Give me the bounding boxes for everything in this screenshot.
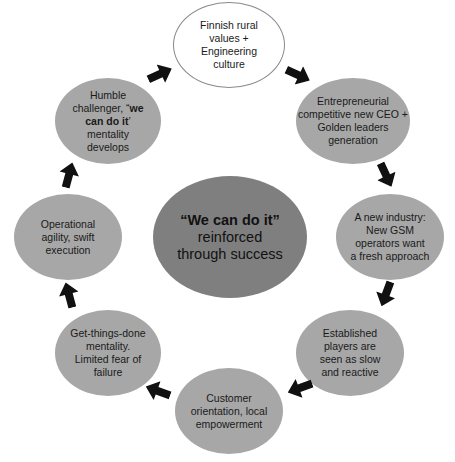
node-text: culture <box>213 58 245 70</box>
node-finnish-rural-values: Finnish rural values + Engineering cultu… <box>173 2 285 88</box>
node-operational-agility: Operational agility, swift execution <box>14 194 122 280</box>
arrow-right-icon <box>144 59 176 88</box>
node-text: a fresh approach <box>351 250 430 262</box>
node-text: orientation, local <box>191 405 267 417</box>
node-text: Humble <box>90 89 126 101</box>
arrow-left-icon <box>142 377 173 405</box>
arrow-down-icon <box>371 159 400 191</box>
center-text: through success <box>177 246 283 262</box>
node-humble-challenger: Humble challenger, “we can do it’ mental… <box>55 78 161 164</box>
center-text: reinforced <box>198 229 262 245</box>
arrow-down-icon <box>372 278 400 309</box>
node-text: agility, swift <box>42 231 95 243</box>
node-text: Get-things-done <box>70 327 145 339</box>
node-text-bold: can do it <box>85 115 128 127</box>
arrow-up-icon <box>56 160 82 190</box>
node-new-industry: A new industry: New GSM operators want a… <box>336 194 444 280</box>
node-text: and reactive <box>321 366 378 378</box>
node-text: competitive new CEO + <box>298 108 408 120</box>
node-text: Established <box>323 327 377 339</box>
node-text: execution <box>46 244 91 256</box>
node-text: A new industry: <box>354 211 425 223</box>
node-text: failure <box>94 366 123 378</box>
node-get-things-done: Get-things-done mentality. Limited fear … <box>55 310 161 396</box>
node-center-we-can-do-it: “We can do it” reinforced through succes… <box>153 176 307 298</box>
node-text: values + <box>209 32 248 44</box>
node-text: New GSM <box>366 224 414 236</box>
node-text: empowerment <box>196 418 263 430</box>
node-text: mentality. <box>86 340 130 352</box>
node-text: players are <box>324 340 376 352</box>
node-text: mentality <box>87 128 129 140</box>
node-text: Entrepreneurial <box>317 95 389 107</box>
node-text: generation <box>328 134 378 146</box>
node-text: challenger, “ <box>72 102 129 114</box>
node-text: Limited fear of <box>75 353 142 365</box>
node-text-bold: we <box>130 102 144 114</box>
arrow-right-icon <box>282 60 314 89</box>
node-entrepreneurial-ceo: Entrepreneurial competitive new CEO + Go… <box>296 78 410 164</box>
node-text: Finnish rural <box>200 19 258 31</box>
node-text: Customer <box>206 392 252 404</box>
node-text: Golden leaders <box>317 121 388 133</box>
node-text: develops <box>87 141 129 153</box>
node-customer-orientation: Customer orientation, local empowerment <box>175 368 283 454</box>
node-text: seen as slow <box>320 353 381 365</box>
arrow-up-icon <box>56 280 82 310</box>
node-text: operators want <box>355 237 424 249</box>
node-text: Operational <box>41 218 95 230</box>
center-title: “We can do it” <box>180 212 280 228</box>
node-text: Engineering <box>201 45 257 57</box>
node-text: ’ <box>128 115 130 127</box>
